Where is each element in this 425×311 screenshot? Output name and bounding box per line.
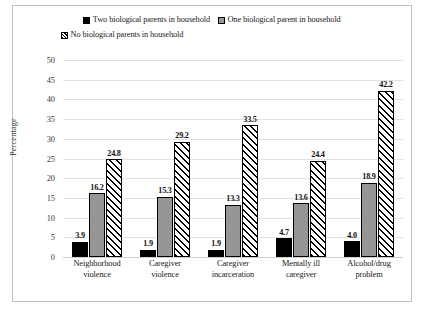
- bar-value-label: 24.4: [311, 150, 325, 159]
- bar[interactable]: [310, 161, 326, 257]
- x-axis-label-1: Caregiverviolence: [131, 259, 199, 280]
- bar-group: 3.916.224.8: [63, 60, 131, 257]
- y-axis-tick-50: 50: [47, 56, 55, 65]
- bar-slot: 24.8: [106, 60, 122, 257]
- y-axis-tick-20: 20: [47, 174, 55, 183]
- bar-value-label: 3.9: [75, 231, 85, 240]
- bar[interactable]: [361, 183, 377, 257]
- x-axis-label-3: Mentally illcaregiver: [267, 259, 335, 280]
- bar-slot: 1.9: [208, 60, 224, 257]
- y-axis-tick-15: 15: [47, 193, 55, 202]
- x-axis-category-labels: NeighborhoodviolenceCaregiverviolenceCar…: [63, 259, 403, 280]
- bar-group: 4.713.624.4: [267, 60, 335, 257]
- bar[interactable]: [208, 250, 224, 257]
- bar[interactable]: [89, 193, 105, 257]
- gridline-0: [63, 257, 403, 258]
- legend-label-two-biological-parents: Two biological parents in household: [93, 14, 210, 26]
- bar-slot: 18.9: [361, 60, 377, 257]
- bar[interactable]: [157, 197, 173, 257]
- legend-item-no-biological-parents[interactable]: No biological parents in household: [61, 29, 183, 41]
- bar-value-label: 4.0: [347, 231, 357, 240]
- bar-slot: 4.7: [276, 60, 292, 257]
- y-axis-tick-40: 40: [47, 95, 55, 104]
- bar-slot: 13.6: [293, 60, 309, 257]
- bar-slot: 33.5: [242, 60, 258, 257]
- y-axis-tick-25: 25: [47, 154, 55, 163]
- bar[interactable]: [72, 242, 88, 257]
- bar[interactable]: [242, 125, 258, 257]
- y-axis-tick-30: 30: [47, 134, 55, 143]
- legend-swatch-solid-black-icon: [83, 17, 90, 24]
- x-axis-label-4: Alcohol/drugproblem: [335, 259, 403, 280]
- legend-item-two-biological-parents[interactable]: Two biological parents in household: [83, 14, 210, 26]
- bar-value-label: 13.3: [226, 194, 240, 203]
- chart-legend: Two biological parents in household One …: [13, 14, 411, 41]
- y-axis-tick-0: 0: [51, 253, 55, 262]
- legend-item-one-biological-parent[interactable]: One biological parent in household: [218, 14, 341, 26]
- bar[interactable]: [276, 238, 292, 257]
- bar-slot: 3.9: [72, 60, 88, 257]
- bar-value-label: 29.2: [175, 131, 189, 140]
- bar-value-label: 16.2: [90, 183, 104, 192]
- bar-slot: 13.3: [225, 60, 241, 257]
- bar-groups: 3.916.224.81.915.329.21.913.333.54.713.6…: [63, 60, 403, 257]
- bar[interactable]: [344, 241, 360, 257]
- y-axis-tick-labels: 50454035302520151050: [13, 60, 59, 257]
- bar-value-label: 1.9: [211, 239, 221, 248]
- bar-group: 1.915.329.2: [131, 60, 199, 257]
- bar[interactable]: [225, 205, 241, 257]
- y-axis-tick-35: 35: [47, 115, 55, 124]
- bar-slot: 24.4: [310, 60, 326, 257]
- bar[interactable]: [106, 159, 122, 257]
- x-axis-label-0: Neighborhoodviolence: [63, 259, 131, 280]
- bar[interactable]: [293, 203, 309, 257]
- bar-group: 4.018.942.2: [335, 60, 403, 257]
- y-axis-tick-45: 45: [47, 75, 55, 84]
- x-axis-label-2: Caregiverincarceration: [199, 259, 267, 280]
- bar-slot: 1.9: [140, 60, 156, 257]
- bar[interactable]: [378, 91, 394, 257]
- bar-slot: 29.2: [174, 60, 190, 257]
- bar-group: 1.913.333.5: [199, 60, 267, 257]
- bar-slot: 16.2: [89, 60, 105, 257]
- bar-value-label: 24.8: [107, 149, 121, 158]
- bar-value-label: 18.9: [362, 172, 376, 181]
- bar-value-label: 42.2: [379, 80, 393, 89]
- legend-row-1: Two biological parents in household One …: [13, 14, 411, 26]
- chart-figure: Two biological parents in household One …: [12, 5, 412, 302]
- bar-value-label: 33.5: [243, 115, 257, 124]
- bar-value-label: 13.6: [294, 193, 308, 202]
- legend-swatch-solid-gray-icon: [218, 17, 225, 24]
- legend-label-no-biological-parents: No biological parents in household: [71, 29, 184, 41]
- bar-value-label: 4.7: [279, 228, 289, 237]
- bar-value-label: 15.3: [158, 186, 172, 195]
- bar-slot: 4.0: [344, 60, 360, 257]
- plot-area: 3.916.224.81.915.329.21.913.333.54.713.6…: [63, 60, 403, 257]
- y-axis-tick-10: 10: [47, 213, 55, 222]
- y-axis-tick-5: 5: [51, 233, 55, 242]
- bar-slot: 15.3: [157, 60, 173, 257]
- legend-row-2: No biological parents in household: [13, 29, 411, 41]
- bar-slot: 42.2: [378, 60, 394, 257]
- bar[interactable]: [140, 250, 156, 257]
- legend-label-one-biological-parent: One biological parent in household: [227, 14, 340, 26]
- bar[interactable]: [174, 142, 190, 257]
- legend-swatch-hatch-icon: [61, 32, 68, 39]
- bar-value-label: 1.9: [143, 239, 153, 248]
